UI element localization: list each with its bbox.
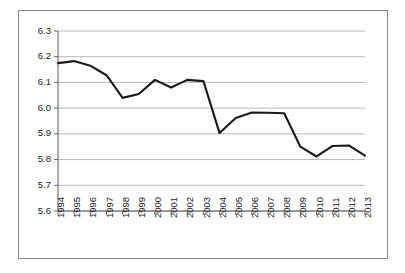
y-tick-label: 5.8 — [38, 153, 51, 164]
y-tick-label: 5.7 — [38, 179, 51, 190]
x-tick-label: 1998 — [120, 197, 131, 218]
x-tick-label: 1995 — [71, 197, 82, 218]
x-tick-label: 2008 — [281, 197, 292, 218]
x-tick-label: 2003 — [201, 197, 212, 218]
x-tick-label: 2010 — [314, 197, 325, 218]
x-tick-label: 2012 — [346, 197, 357, 218]
x-tick-label: 2013 — [362, 197, 373, 218]
x-tick-label: 2009 — [297, 197, 308, 218]
y-tick-label: 5.6 — [38, 205, 51, 216]
x-tick-label: 1994 — [55, 197, 66, 218]
x-tick-label: 1996 — [87, 197, 98, 218]
x-tick-label: 2001 — [168, 197, 179, 218]
x-axis-tick-labels: 1994199519961997199819992000200120022003… — [55, 197, 373, 218]
y-tick-label: 6.0 — [38, 102, 51, 113]
data-series-line — [58, 61, 365, 156]
x-tick-label: 2011 — [330, 198, 341, 218]
x-tick-label: 1999 — [136, 197, 147, 218]
y-tick-label: 6.1 — [38, 76, 51, 87]
x-tick-label: 2002 — [184, 197, 195, 218]
axis-ticks — [54, 31, 365, 215]
y-tick-label: 6.3 — [38, 25, 51, 36]
x-tick-label: 2006 — [249, 197, 260, 218]
x-tick-label: 2007 — [265, 197, 276, 218]
x-tick-label: 2004 — [217, 197, 228, 218]
y-axis-tick-labels: 6.36.26.16.05.95.85.75.6 — [38, 25, 51, 216]
x-tick-label: 2000 — [152, 197, 163, 218]
x-tick-label: 1997 — [104, 197, 115, 218]
x-tick-label: 2005 — [233, 197, 244, 218]
gridlines — [58, 31, 365, 211]
y-tick-label: 5.9 — [38, 127, 51, 138]
y-tick-label: 6.2 — [38, 50, 51, 61]
line-chart: 6.36.26.16.05.95.85.75.6 199419951996199… — [0, 0, 405, 273]
